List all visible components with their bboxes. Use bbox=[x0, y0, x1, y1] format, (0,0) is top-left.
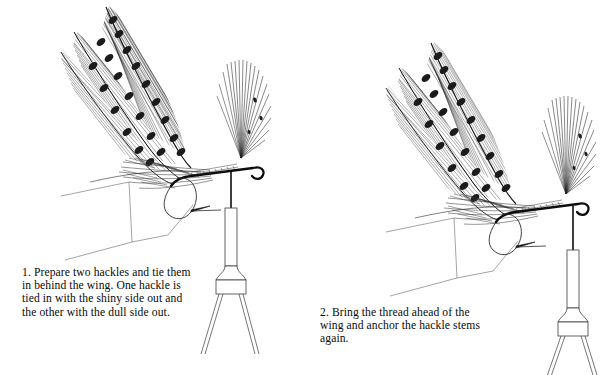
bobbin bbox=[543, 250, 601, 375]
feather-wing bbox=[370, 28, 530, 233]
bobbin-tube bbox=[225, 208, 237, 266]
vise-jaws bbox=[386, 218, 518, 296]
bobbin-tube bbox=[567, 250, 579, 308]
hackle-fiber-fan bbox=[542, 96, 596, 194]
hackle-fiber-fan bbox=[217, 60, 271, 158]
figure-2-illustration bbox=[330, 28, 602, 348]
hook bbox=[164, 167, 263, 218]
vise-jaws bbox=[61, 182, 193, 260]
figure-2-caption: 2. Bring the thread ahead of the wing an… bbox=[320, 306, 535, 346]
bobbin-legs bbox=[543, 336, 601, 375]
bobbin-spool bbox=[558, 322, 588, 336]
figure-1-caption: 1. Prepare two hackles and tie them in b… bbox=[22, 266, 237, 319]
bobbin-cone bbox=[558, 308, 588, 322]
